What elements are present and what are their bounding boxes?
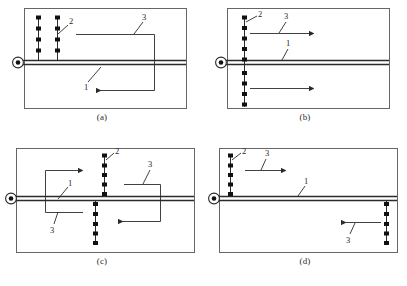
label-3-upper: 3	[265, 148, 269, 158]
label-2-leader	[246, 16, 257, 22]
panel-d: 2 3 1 3 (d)	[203, 142, 407, 262]
shaft	[18, 61, 186, 65]
caption-panel-c: (c)	[0, 256, 204, 266]
shaft	[213, 197, 397, 201]
figure-root: 2 3 1 (a)	[0, 0, 407, 286]
marker-array-center	[242, 16, 247, 108]
label-3-right-leader	[143, 170, 150, 184]
label-1-leader	[88, 67, 101, 82]
label-1-leader	[298, 186, 305, 196]
label-2: 2	[258, 9, 262, 19]
label-3-right: 3	[148, 159, 152, 169]
label-2: 2	[115, 146, 119, 156]
panel-a: 2 3 1 (a)	[0, 0, 204, 118]
marker-array-right	[55, 16, 60, 62]
caption-panel-b: (b)	[203, 112, 407, 122]
bearing-pivot-icon	[216, 57, 227, 68]
marker-array-left	[36, 16, 41, 62]
label-3-leader	[134, 22, 143, 34]
caption-panel-d: (d)	[203, 256, 407, 266]
bracket-open-left	[118, 185, 161, 222]
label-2-leader	[232, 153, 241, 160]
bearing-pivot-icon	[13, 57, 24, 68]
label-1: 1	[304, 176, 308, 186]
panel-b: 2 3 1 (b)	[203, 0, 407, 118]
label-3-lower: 3	[346, 235, 350, 245]
panel-border	[228, 9, 390, 109]
label-3-lower-leader	[350, 223, 355, 234]
label-3: 3	[284, 11, 288, 21]
marker-array-lower-right	[384, 200, 389, 245]
label-1: 1	[68, 178, 72, 188]
label-3-left: 3	[50, 225, 54, 235]
bearing-pivot-icon	[209, 193, 220, 204]
label-3-leader	[279, 22, 286, 33]
label-3-upper-leader	[261, 159, 266, 170]
label-2: 2	[69, 16, 73, 26]
panel-border	[25, 9, 187, 109]
shaft	[10, 197, 194, 201]
label-1-leader	[282, 49, 288, 60]
panel-c: 2 1 3 3 (c)	[0, 142, 204, 262]
label-2-leader	[106, 153, 114, 160]
marker-array-lower	[93, 200, 98, 245]
label-2: 2	[242, 146, 246, 156]
label-1-leader	[58, 187, 68, 199]
label-1: 1	[286, 38, 290, 48]
label-3-left-leader	[54, 212, 58, 224]
caption-panel-a: (a)	[0, 112, 204, 122]
bearing-pivot-icon	[6, 193, 17, 204]
label-1: 1	[84, 82, 88, 92]
label-3: 3	[142, 12, 146, 22]
